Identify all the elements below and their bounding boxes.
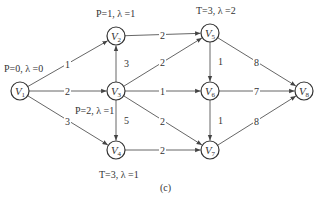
node-subscript: 5 [212,33,216,41]
edge-weight-v3-v5: 2 [160,57,165,68]
node-v2: V2 [107,27,125,45]
node-subscript: 8 [306,91,310,99]
edge-weight-v5-v6: 1 [218,56,223,67]
edge-weight-v3-v6: 1 [160,86,165,97]
annotation-v5: T=3, λ =2 [196,5,236,16]
annotation-v4: T=3, λ =1 [99,169,139,180]
edge-weight-v3-v2: 3 [124,58,129,69]
annotation-v2: P=1, λ =1 [96,8,135,19]
annotation-v1: P=0, λ =0 [4,63,43,74]
edge-weight-v6-v7: 1 [218,115,223,126]
network-diagram: 123352212211878 V1V2V3V4V5V6V7V8 P=0, λ … [0,0,320,202]
node-subscript: 4 [118,150,122,158]
node-v8: V8 [295,82,313,100]
node-v5: V5 [201,24,219,42]
node-subscript: 1 [22,91,26,99]
figure-caption: (c) [160,182,171,194]
edge-weight-v3-v4: 5 [124,115,129,126]
edge-weight-v6-v8: 7 [254,86,259,97]
edge-weight-v1-v4: 3 [65,116,70,127]
node-v6: V6 [201,82,219,100]
node-v7: V7 [201,141,219,159]
node-v4: V4 [107,141,125,159]
node-subscript: 2 [118,36,122,44]
edge-weight-v5-v8: 8 [254,57,259,68]
edge-weight-v2-v5: 2 [160,30,165,41]
edge-weight-v1-v2: 1 [65,59,70,70]
edge-weight-v3-v7: 2 [160,116,165,127]
edge-weight-v7-v8: 8 [254,116,259,127]
node-subscript: 7 [212,150,216,158]
node-subscript: 3 [118,91,122,99]
node-v1: V1 [11,82,29,100]
edge-weight-v4-v7: 2 [160,145,165,156]
node-subscript: 6 [212,91,216,99]
node-v3: V3 [107,82,125,100]
annotation-v3: P=2, λ =1 [75,105,114,116]
edge-weight-v1-v3: 2 [65,86,70,97]
